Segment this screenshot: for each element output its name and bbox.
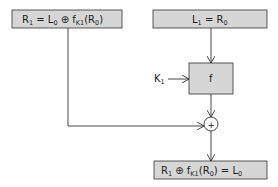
svg-text:+: + (208, 120, 216, 130)
top-right-box: L1 = R0 (153, 10, 267, 28)
edge-top-left-to-xor (68, 28, 204, 126)
top-left-box: R1 = L0 ⊕ fK1(R0) (12, 10, 122, 28)
feistel-diagram: R1 = L0 ⊕ fK1(R0) L1 = R0 f K1 + R1 ⊕ fK… (0, 0, 278, 187)
key-label: K1 (154, 73, 165, 86)
xor-node: + (204, 117, 218, 131)
svg-text:f: f (209, 73, 213, 84)
function-box: f (189, 63, 233, 94)
bottom-box: R1 ⊕ fK1(R0) = L0 (154, 161, 267, 179)
